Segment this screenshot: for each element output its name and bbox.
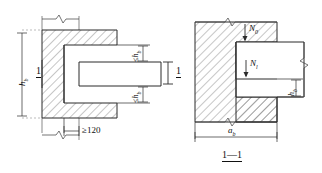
beam-outline bbox=[79, 62, 161, 86]
section-marker-left: 1 bbox=[36, 66, 41, 78]
label-load-upper: N0 bbox=[249, 24, 258, 35]
engineering-drawing-svg bbox=[0, 0, 322, 173]
right-figure-group bbox=[163, 18, 308, 142]
break-symbol-left-bottom bbox=[42, 131, 79, 139]
section-cut-line-right bbox=[163, 62, 173, 84]
section-caption: 1—1 bbox=[222, 150, 242, 162]
label-load-lower: Nl bbox=[250, 59, 258, 70]
label-left-height: hb bbox=[18, 79, 29, 87]
label-gap-lower: ≤hb bbox=[132, 92, 142, 103]
break-symbol-left-top bbox=[42, 15, 79, 23]
label-right-height: hb bbox=[288, 89, 298, 96]
label-bearing-length: ab bbox=[228, 126, 236, 137]
label-gap-upper: ≤hb bbox=[132, 51, 142, 62]
label-min-bearing: ≥120 bbox=[82, 126, 100, 135]
section-marker-right: 1 bbox=[176, 66, 181, 78]
dimension-bottom-left bbox=[64, 118, 79, 136]
dimension-bottom-right bbox=[195, 122, 277, 142]
drawing-canvas: hb 1 ≤hb ≤hb ≥120 1 N0 Nl hb ab 1—1 bbox=[0, 0, 322, 173]
ledge-hatched bbox=[236, 97, 277, 122]
